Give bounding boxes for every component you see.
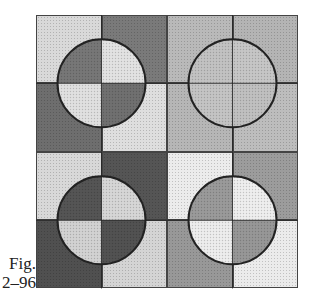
figure-caption: Fig. 2–96 bbox=[2, 254, 36, 292]
quadrant-top-left bbox=[36, 15, 167, 152]
circle-top-left bbox=[36, 15, 167, 152]
circle-bottom-left bbox=[36, 152, 167, 289]
circle-top-right bbox=[167, 15, 298, 152]
figure-grid bbox=[36, 15, 298, 288]
circle-bottom-right bbox=[167, 152, 298, 289]
quadrant-bottom-right bbox=[167, 152, 298, 289]
quadrant-top-right bbox=[167, 15, 298, 152]
caption-fig-number: 2–96 bbox=[2, 273, 36, 292]
caption-fig-label: Fig. bbox=[2, 254, 36, 273]
quadrant-bottom-left bbox=[36, 152, 167, 289]
